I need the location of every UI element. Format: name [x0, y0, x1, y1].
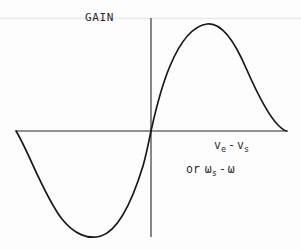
x-axis-label-frequency: orωs-ω — [186, 164, 235, 177]
x-axis-label-voltage: ve-vs — [214, 140, 249, 153]
label-var-omega-base: ω — [228, 162, 235, 176]
label-var-vs-base: v — [237, 138, 244, 152]
label-operator-minus-2: - — [217, 162, 228, 176]
label-var-vs-sub: s — [244, 144, 249, 154]
label-prefix-or: or — [186, 162, 200, 176]
label-var-omegas-base: ω — [200, 162, 212, 176]
label-var-ve-base: v — [214, 138, 221, 152]
plot-area — [0, 0, 301, 250]
gain-characteristic-figure: GAIN ve-vs orωs-ω — [0, 0, 301, 250]
gain-axis-label: GAIN — [85, 12, 114, 23]
label-operator-minus-1: - — [226, 138, 237, 152]
